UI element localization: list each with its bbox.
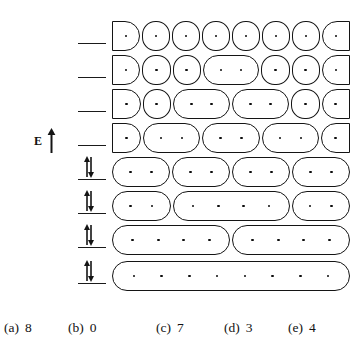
- lobe-node-dot: [220, 69, 223, 72]
- answer-choice[interactable]: (a)8: [4, 320, 32, 336]
- lobe-node-dot: [185, 69, 188, 72]
- orbital-lobe: [232, 21, 260, 51]
- lobe-node-dot: [215, 35, 218, 38]
- lobe-node-dot: [155, 69, 158, 72]
- paired-arrows-icon: [82, 156, 96, 178]
- lobe-node-dot: [335, 35, 338, 38]
- energy-level-line: [78, 213, 106, 214]
- orbital-lobe-track: [112, 21, 350, 55]
- lobe-node-dot: [125, 103, 128, 106]
- answer-choice[interactable]: (d)3: [224, 320, 253, 336]
- answer-choice-tag: (e): [288, 320, 303, 335]
- lobe-node-dot: [245, 35, 248, 38]
- lobe-node-dot: [160, 137, 163, 140]
- orbital-lobe: [112, 191, 171, 221]
- answer-choice-value: 7: [177, 320, 184, 335]
- energy-level-line: [78, 283, 106, 284]
- lobe-node-dot: [208, 239, 211, 242]
- answer-choice[interactable]: (b)0: [68, 320, 97, 336]
- energy-level-line: [78, 179, 106, 180]
- orbital-lobe: [112, 157, 170, 187]
- orbital-lobe: [232, 225, 350, 255]
- lobe-node-dot: [182, 239, 185, 242]
- orbital-lobe: [143, 89, 172, 119]
- lobe-node-dot: [240, 69, 243, 72]
- orbital-lobe-track: [112, 89, 350, 123]
- lobe-node-dot: [299, 275, 302, 278]
- orbital-lobe: [322, 55, 350, 85]
- lobe-node-dot: [125, 137, 128, 140]
- orbital-lobe: [262, 21, 290, 51]
- orbital-lobe: [173, 191, 290, 221]
- orbital-lobe: [172, 157, 230, 187]
- orbital-lobe-track: [112, 225, 350, 259]
- lobe-node-dot: [305, 35, 308, 38]
- answer-choice-tag: (b): [68, 320, 84, 335]
- lobe-node-dot: [269, 103, 272, 106]
- lobe-node-dot: [328, 239, 331, 242]
- orbital-lobe: [173, 55, 201, 85]
- lobe-node-dot: [217, 205, 220, 208]
- lobe-node-dot: [185, 35, 188, 38]
- lobe-node-dot: [251, 239, 254, 242]
- energy-level-line: [78, 111, 106, 112]
- lobe-node-dot: [330, 205, 333, 208]
- orbital-energy-diagram: E (a)8(b)0(c)7(d)3(e)4: [0, 0, 355, 345]
- energy-axis: E: [34, 128, 56, 154]
- lobe-node-dot: [133, 275, 136, 278]
- lobe-node-dot: [129, 171, 132, 174]
- orbital-lobe: [322, 89, 351, 119]
- lobe-node-dot: [125, 69, 128, 72]
- lobe-node-dot: [271, 275, 274, 278]
- lobe-node-dot: [189, 171, 192, 174]
- lobe-node-dot: [268, 205, 271, 208]
- orbital-lobe: [142, 21, 170, 51]
- energy-level-line: [78, 77, 106, 78]
- answer-choice[interactable]: (c)7: [156, 320, 184, 336]
- orbital-lobe: [261, 55, 289, 85]
- lobe-node-dot: [190, 103, 193, 106]
- answer-choice-value: 0: [90, 320, 97, 335]
- orbital-lobe: [232, 89, 289, 119]
- lobe-node-dot: [249, 171, 252, 174]
- orbital-lobe: [321, 123, 350, 153]
- orbital-lobe: [142, 55, 170, 85]
- orbital-lobe: [292, 157, 350, 187]
- lobe-node-dot: [216, 275, 219, 278]
- paired-arrows-icon: [82, 190, 96, 212]
- answer-choice-tag: (d): [224, 320, 240, 335]
- lobe-node-dot: [309, 205, 312, 208]
- lobe-node-dot: [244, 275, 247, 278]
- orbital-lobe-track: [112, 123, 350, 157]
- lobe-node-dot: [192, 205, 195, 208]
- answer-choice-value: 8: [25, 320, 32, 335]
- orbital-lobe: [112, 123, 141, 153]
- energy-level-line: [78, 247, 106, 248]
- lobe-node-dot: [157, 239, 160, 242]
- lobe-node-dot: [335, 69, 338, 72]
- lobe-node-dot: [210, 171, 213, 174]
- lobe-node-dot: [240, 137, 243, 140]
- orbital-lobe: [112, 261, 350, 291]
- energy-level-line: [78, 43, 106, 44]
- orbital-lobe: [173, 89, 230, 119]
- orbital-lobe: [291, 89, 320, 119]
- lobe-node-dot: [188, 275, 191, 278]
- lobe-node-dot: [242, 205, 245, 208]
- orbital-lobe: [292, 21, 320, 51]
- orbital-lobe-track: [112, 157, 350, 191]
- orbital-lobe: [262, 123, 320, 153]
- lobe-node-dot: [249, 103, 252, 106]
- orbital-lobe: [112, 225, 230, 255]
- orbital-lobe: [143, 123, 201, 153]
- lobe-node-dot: [279, 137, 282, 140]
- lobe-node-dot: [125, 35, 128, 38]
- orbital-lobe: [112, 89, 141, 119]
- lobe-node-dot: [131, 239, 134, 242]
- lobe-node-dot: [210, 103, 213, 106]
- lobe-node-dot: [270, 171, 273, 174]
- orbital-lobe: [172, 21, 200, 51]
- lobe-node-dot: [334, 103, 337, 106]
- answer-choice[interactable]: (e)4: [288, 320, 316, 336]
- answer-choice-tag: (c): [156, 320, 171, 335]
